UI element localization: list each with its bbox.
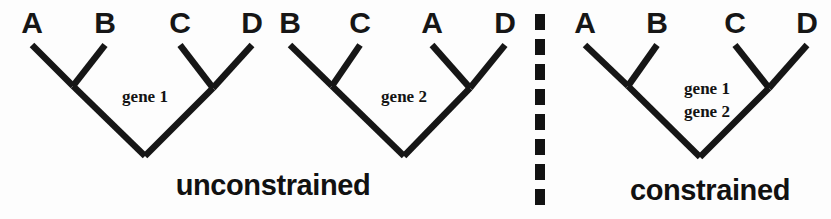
branch-tip-B xyxy=(628,45,657,86)
branch-tip-D xyxy=(470,45,505,88)
divider-dash xyxy=(535,14,545,30)
branch-tip-A xyxy=(432,45,470,88)
tree-3-branches xyxy=(585,45,807,157)
tip-label-tree3-0: A xyxy=(568,8,602,38)
branch-tip-C xyxy=(735,45,769,88)
branch-tip-D xyxy=(213,45,252,88)
divider-dash xyxy=(535,164,545,180)
phylogeny-figure: A B C D B C A D A B C D gene 1 gene 2 ge… xyxy=(0,0,831,219)
tip-label-tree2-3: D xyxy=(488,8,522,38)
branch-internal-CD xyxy=(700,88,769,157)
divider-dash xyxy=(535,189,545,205)
divider-dash xyxy=(535,139,545,155)
gene-label-tree2-0: gene 2 xyxy=(381,87,427,106)
branch-tip-A xyxy=(585,45,628,86)
tip-label-tree2-2: A xyxy=(415,8,449,38)
tip-label-tree3-2: C xyxy=(718,8,752,38)
tip-label-tree2-0: B xyxy=(273,8,307,38)
caption-constrained: constrained xyxy=(630,175,790,206)
branch-tip-B xyxy=(73,45,105,86)
branch-tip-B xyxy=(290,45,332,86)
tip-label-tree1-3: D xyxy=(235,8,269,38)
gene-label-tree3-0: gene 1 xyxy=(684,79,730,98)
divider-dash xyxy=(535,89,545,105)
divider-dash xyxy=(535,114,545,130)
caption-unconstrained: unconstrained xyxy=(176,170,371,201)
divider-dash xyxy=(535,64,545,80)
tip-label-tree1-0: A xyxy=(15,8,49,38)
branch-tip-C xyxy=(332,45,360,86)
tip-label-tree1-1: B xyxy=(88,8,122,38)
tip-label-tree2-1: C xyxy=(343,8,377,38)
divider-dash xyxy=(535,39,545,55)
gene-label-tree3-1: gene 2 xyxy=(684,102,730,121)
tip-label-tree1-2: C xyxy=(163,8,197,38)
branch-tip-C xyxy=(180,45,213,88)
gene-label-tree1-0: gene 1 xyxy=(122,87,168,106)
branch-tip-D xyxy=(769,45,807,88)
tip-label-tree3-1: B xyxy=(640,8,674,38)
tip-label-tree3-3: D xyxy=(790,8,824,38)
branch-tip-A xyxy=(32,45,73,86)
